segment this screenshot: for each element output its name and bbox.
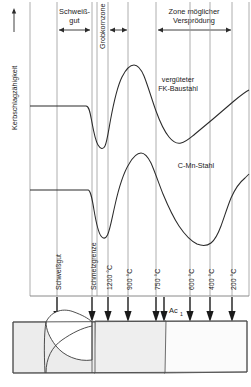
tick-label-1200: 1200 °C [106,265,113,290]
arrow-right-icon [85,28,90,33]
toughness-weld-zone-diagram: Schweiß- gut Grobkornzone Zone möglicher… [0,0,251,387]
pointer-arrow-icon [88,297,95,322]
curve-label-fk-2: FK-Baustahl [158,84,198,93]
arrow-right-icon [122,28,127,33]
heat-affected-zone [94,321,166,373]
tick-label-750: 750 °C [154,269,161,290]
arrow-right-icon [226,28,231,33]
pointer-arrow-icon-ac1 [160,297,167,322]
pointer-arrow-icon [206,297,213,322]
axis-arrow-icon [12,8,16,14]
bracket-versproedung: Zone möglicher Versprödung [158,7,231,32]
arrow-left-icon [59,28,64,33]
ac1-label: Ac [169,306,178,315]
base-metal-unaffected [164,321,247,373]
arrow-left-icon [110,28,115,33]
curve-label-fk-1: vergüteter [162,75,195,84]
tick-label-200: 200 °C [230,269,237,290]
tick-label-schweissgut: Schweißgut [55,254,63,290]
weld-cross-section [13,310,247,373]
y-axis-label: Kerbschlagzähigkeit [10,66,19,130]
curve-c-mn-stahl [30,153,249,245]
y-axis: Kerbschlagzähigkeit [10,8,19,130]
bracket-label-schweissgut-1: Schweiß- [59,7,90,16]
curve-fk-baustahl [30,65,249,149]
figure-root: Schweiß- gut Grobkornzone Zone möglicher… [0,0,251,387]
bracket-grobkornzone [110,28,127,33]
tick-label-schmelzgrenze: Schmelzgrenze [90,242,98,290]
tick-label-900: 900 °C [126,269,133,290]
pointer-arrow-icon [104,297,111,322]
bracket-schweissgut: Schweiß- gut [59,7,90,32]
tick-label-600: 600 °C [188,269,195,290]
arrow-left-icon [158,28,163,33]
pointer-arrow-icon [124,297,131,322]
bracket-label-versproedung-1: Zone möglicher [169,7,220,16]
bracket-label-schweissgut-2: gut [69,16,79,25]
plot-grid [30,2,249,296]
ac1-subscript: 1 [180,311,183,317]
bracket-label-grobkornzone: Grobkornzone [98,3,107,49]
pointer-arrow-icon [186,297,193,322]
top-bracket-region: Schweiß- gut Grobkornzone Zone möglicher… [59,3,231,49]
curve-annotation-fk: vergüteter FK-Baustahl [158,75,198,93]
curve-label-cmn: C-Mn-Stahl [178,161,215,170]
pointer-arrow-icon [228,297,235,322]
ac1-annotation: Ac 1 [169,306,183,317]
bracket-label-versproedung-2: Versprödung [173,16,215,25]
pointer-arrow-icon [152,297,159,322]
tick-label-400: 400 °C [208,269,215,290]
